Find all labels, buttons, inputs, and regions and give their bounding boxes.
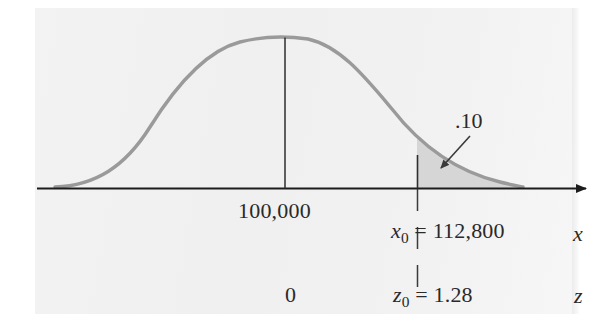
critical-z-equals: = bbox=[409, 282, 433, 307]
mean-label: 100,000 bbox=[238, 200, 311, 222]
critical-x-variable: x bbox=[391, 218, 401, 243]
z-mean-label: 0 bbox=[285, 284, 296, 306]
x-axis-label: x bbox=[573, 223, 583, 245]
critical-z-variable: z bbox=[393, 282, 402, 307]
tail-area-label: .10 bbox=[455, 110, 483, 132]
critical-z-label: z0 = 1.28 bbox=[393, 284, 473, 309]
z-axis-label: z bbox=[574, 285, 583, 307]
critical-z-value: 1.28 bbox=[433, 282, 472, 307]
critical-x-subscript: 0 bbox=[401, 229, 409, 246]
normal-curve-path bbox=[55, 37, 523, 187]
tail-shaded-region bbox=[55, 38, 523, 188]
critical-x-equals: = bbox=[409, 218, 433, 243]
critical-x-label: x0 = 112,800 bbox=[391, 220, 505, 245]
normal-curve-graphic bbox=[0, 0, 612, 326]
critical-x-value: 112,800 bbox=[433, 218, 505, 243]
figure-canvas: 100,000 0 x0 = 112,800 z0 = 1.28 x z .10 bbox=[0, 0, 612, 326]
